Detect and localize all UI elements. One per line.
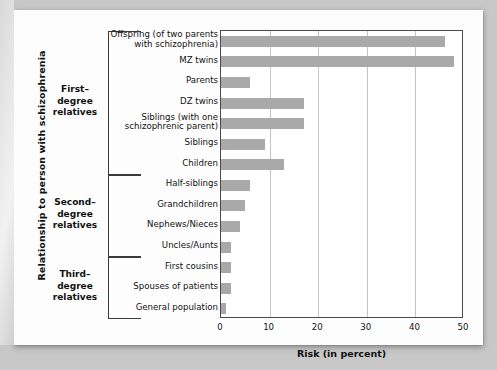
bar [221,303,226,314]
gridline-20 [318,31,319,317]
category-label: First cousins [68,262,218,272]
category-label: Nephews/Nieces [68,220,218,230]
x-tick-label-30: 30 [354,322,378,332]
bar [221,56,454,67]
gridline-40 [415,31,416,317]
x-tick-label-50: 50 [451,322,475,332]
bar [221,77,250,88]
gridline-30 [367,31,368,317]
category-label-line: Children [68,159,218,169]
plot-area [220,30,463,318]
bar [221,242,231,253]
category-label: General population [68,303,218,313]
category-label: DZ twins [68,97,218,107]
x-axis-title: Risk (in percent) [220,348,463,359]
category-label-line: Parents [68,76,218,86]
category-label: Parents [68,76,218,86]
x-tick-label-40: 40 [402,322,426,332]
category-label: Siblings (with oneschizophrenic parent) [68,113,218,133]
category-label: Children [68,159,218,169]
bar [221,283,231,294]
x-tick-label-20: 20 [305,322,329,332]
bar [221,139,265,150]
category-label: Siblings [68,138,218,148]
category-label-line: Nephews/Nieces [68,220,218,230]
category-label-line: DZ twins [68,97,218,107]
category-label-line: General population [68,303,218,313]
category-label-container: Offspring (of two parentswith schizophre… [63,28,218,320]
bar [221,180,250,191]
category-label: Offspring (of two parentswith schizophre… [68,30,218,50]
bar [221,36,445,47]
x-tick-label-10: 10 [257,322,281,332]
bar [221,262,231,273]
bar [221,159,284,170]
category-label: MZ twins [68,56,218,66]
category-label-line: schizophrenic parent) [68,122,218,132]
category-label-line: Spouses of patients [68,282,218,292]
category-label-line: Uncles/Aunts [68,241,218,251]
bar [221,98,304,109]
category-label: Spouses of patients [68,282,218,292]
category-label: Uncles/Aunts [68,241,218,251]
category-label-line: First cousins [68,262,218,272]
category-label: Grandchildren [68,200,218,210]
category-label-line: Grandchildren [68,200,218,210]
category-label-line: with schizophrenia) [68,40,218,50]
bar [221,221,240,232]
category-label: Half-siblings [68,179,218,189]
bar [221,118,304,129]
category-label-line: Siblings [68,138,218,148]
bar [221,200,245,211]
category-label-line: MZ twins [68,56,218,66]
y-axis-title: Relationship to person with schizophreni… [36,46,47,286]
chart-figure: Relationship to person with schizophreni… [0,0,497,370]
x-tick-label-0: 0 [208,322,232,332]
category-label-line: Half-siblings [68,179,218,189]
gridline-10 [270,31,271,317]
